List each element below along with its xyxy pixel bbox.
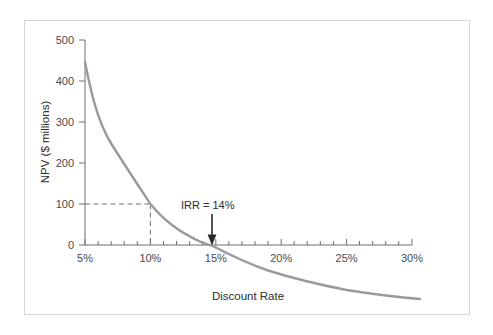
x-axis-minor-ticks	[98, 241, 399, 245]
x-tick-label-30: 30%	[401, 252, 423, 264]
y-axis-title: NPV ($ millions)	[39, 101, 51, 184]
x-axis-major-ticks	[85, 239, 412, 245]
x-tick-label-10: 10%	[139, 252, 161, 264]
y-tick-label-400: 400	[56, 75, 74, 87]
irr-arrow-icon	[208, 214, 217, 246]
x-tick-label-5: 5%	[77, 252, 93, 264]
x-tick-label-25: 25%	[336, 252, 358, 264]
y-axis-ticks	[79, 40, 85, 245]
y-tick-label-100: 100	[56, 198, 74, 210]
y-tick-label-500: 500	[56, 34, 74, 46]
x-tick-label-15: 15%	[205, 252, 227, 264]
y-tick-label-300: 300	[56, 116, 74, 128]
x-tick-label-20: 20%	[270, 252, 292, 264]
chart-canvas: 500 400 300 200 100 0	[0, 0, 493, 335]
figure-root: 500 400 300 200 100 0	[0, 0, 493, 335]
y-tick-label-200: 200	[56, 157, 74, 169]
y-tick-label-0: 0	[68, 239, 74, 251]
irr-annotation-label: IRR = 14%	[181, 199, 235, 211]
x-axis-title: Discount Rate	[212, 290, 284, 302]
npv-curve	[85, 62, 420, 299]
